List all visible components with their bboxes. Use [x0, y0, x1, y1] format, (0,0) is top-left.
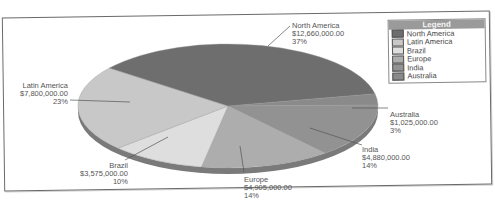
legend-swatch	[392, 55, 404, 63]
label-india: India $4,880,000.00 14%	[362, 146, 410, 170]
legend-swatch	[392, 72, 404, 80]
legend-swatch	[392, 30, 404, 38]
label-latin-america: Latin America $7,800,000.00 23%	[20, 82, 68, 106]
label-north-america: North America $12,660,000.00 37%	[292, 22, 344, 46]
legend-swatch	[392, 64, 404, 72]
legend-swatch	[392, 47, 404, 55]
label-australia: Australia $1,025,000.00 3%	[390, 111, 438, 135]
legend: Legend North America Latin America Brazi…	[388, 18, 487, 83]
legend-swatch	[392, 38, 404, 46]
legend-item-australia: Australia	[389, 71, 485, 81]
label-europe: Europe $4,905,000.00 14%	[244, 176, 292, 200]
label-brazil: Brazil $3,575,000.00 10%	[80, 162, 128, 186]
pie-slices	[78, 44, 378, 168]
